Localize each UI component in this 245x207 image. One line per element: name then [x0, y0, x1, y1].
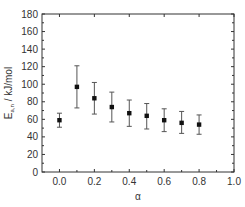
y-tick-label: 140 [21, 44, 38, 55]
x-tick-label: 0.6 [157, 176, 171, 187]
y-axis-title: Ea,n / kJ/mol [3, 67, 15, 119]
y-tick-label: 120 [21, 61, 38, 72]
x-axis: 0.00.20.40.60.81.0 [53, 14, 242, 187]
x-tick-label: 1.0 [227, 176, 241, 187]
y-tick-label: 180 [21, 9, 38, 20]
data-point [162, 118, 166, 122]
y-tick-label: 100 [21, 79, 38, 90]
data-point [92, 96, 96, 100]
y-tick-label: 40 [27, 131, 39, 142]
x-tick-label: 0.0 [53, 176, 67, 187]
y-tick-label: 160 [21, 26, 38, 37]
x-tick-label: 0.2 [87, 176, 101, 187]
data-point [179, 121, 183, 125]
chart: 0.00.20.40.60.81.0 020406080100120140160… [0, 0, 245, 207]
data-point [145, 114, 149, 118]
plot-frame [42, 14, 234, 172]
data-point [127, 111, 131, 115]
x-axis-title: α [135, 191, 141, 202]
y-tick-label: 60 [27, 114, 39, 125]
data-point [75, 85, 79, 89]
data-point [57, 118, 61, 122]
y-tick-label: 0 [32, 167, 38, 178]
data-point [197, 122, 201, 126]
y-tick-label: 20 [27, 149, 39, 160]
x-tick-label: 0.8 [192, 176, 206, 187]
data-point [110, 105, 114, 109]
x-tick-label: 0.4 [122, 176, 136, 187]
y-axis: 020406080100120140160180 [21, 9, 234, 178]
y-tick-label: 80 [27, 96, 39, 107]
